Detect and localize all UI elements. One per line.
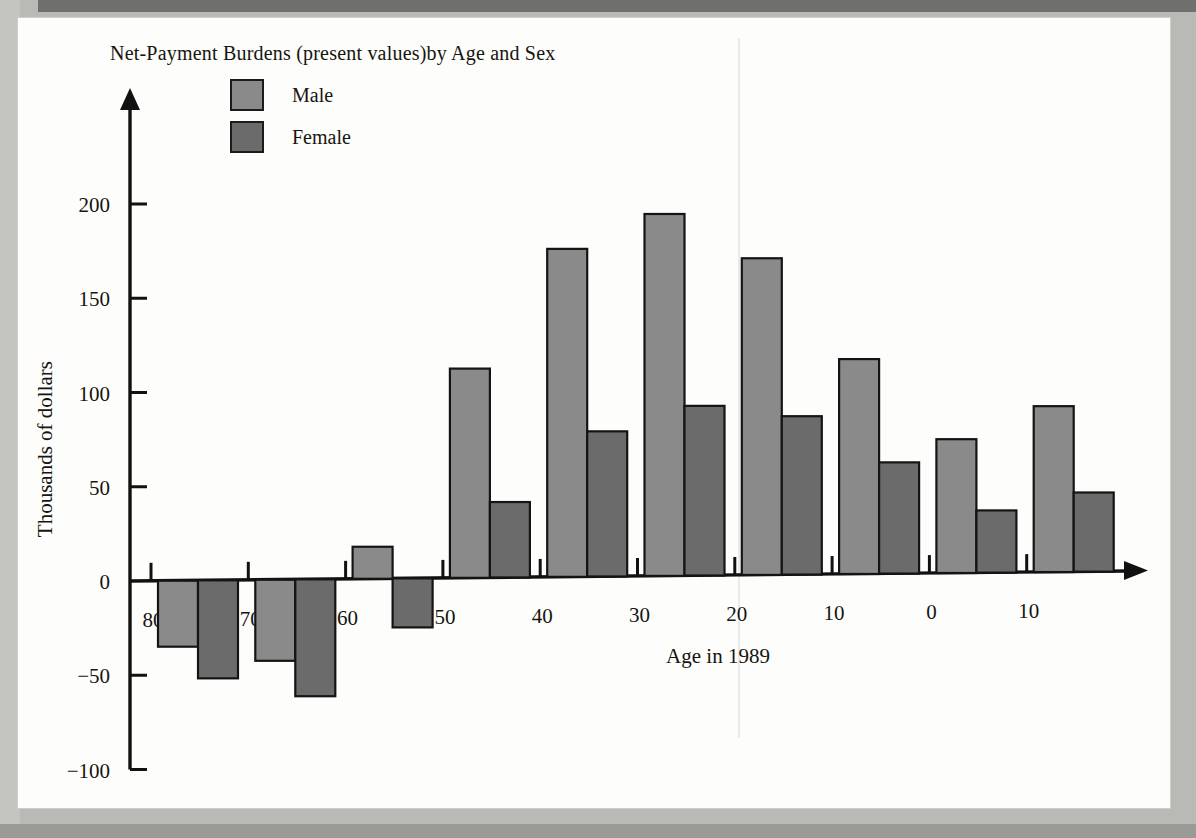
page-left-edge: [0, 0, 20, 838]
x-axis-tick-label: 40: [532, 604, 553, 628]
bar-female-80: [198, 580, 238, 678]
x-axis-tick-label: 50: [434, 605, 455, 629]
chart-svg: 200150100500−50−100Thousands of dollars8…: [18, 18, 1170, 808]
bar-male-30: [645, 214, 685, 576]
bar-female-10: [1074, 492, 1114, 571]
bar-male-70: [255, 580, 295, 661]
y-axis-tick-label: 50: [89, 476, 110, 500]
x-axis-arrow: [1124, 561, 1148, 580]
bar-female-20: [782, 416, 822, 574]
x-axis-title: Age in 1989: [666, 644, 770, 668]
y-axis-tick-label: 200: [79, 193, 111, 217]
x-axis-tick-label: 0: [926, 600, 937, 624]
bar-male-0: [936, 439, 976, 573]
bar-female-50: [490, 502, 530, 577]
bar-female-60: [393, 578, 433, 627]
y-axis-tick-label: 100: [79, 382, 111, 406]
y-axis-tick-label: −50: [77, 664, 110, 688]
bar-male-40: [547, 249, 587, 577]
bar-male-80: [158, 581, 198, 647]
page-top-band: [38, 0, 1196, 12]
bar-male-60: [353, 547, 393, 579]
x-axis-tick-label: 10: [1018, 599, 1039, 623]
chart-figure: Net-Payment Burdens (present values)by A…: [18, 18, 1170, 808]
bar-female-30: [685, 406, 725, 576]
x-axis-tick-label: 20: [726, 602, 747, 626]
bar-male-10: [1034, 406, 1074, 572]
x-axis-tick-label: 30: [629, 603, 650, 627]
y-axis-arrow: [120, 88, 140, 110]
y-axis-tick-label: 150: [79, 287, 111, 311]
bar-male-20: [742, 258, 782, 575]
plot-area: 200150100500−50−100Thousands of dollars8…: [18, 18, 1170, 808]
bar-male-10: [839, 359, 879, 574]
bar-female-40: [587, 431, 627, 576]
x-axis-tick-label: 10: [824, 601, 845, 625]
x-axis-tick-label: 60: [337, 606, 358, 630]
bar-female-0: [976, 510, 1016, 572]
bar-female-70: [295, 579, 335, 696]
y-axis-title: Thousands of dollars: [33, 361, 57, 537]
y-axis-tick-label: 0: [100, 570, 111, 594]
figure-page: Net-Payment Burdens (present values)by A…: [18, 18, 1170, 808]
y-axis-tick-label: −100: [67, 759, 110, 783]
bar-female-10: [879, 462, 919, 573]
bar-male-50: [450, 369, 490, 578]
page-bottom-band: [0, 824, 1196, 838]
